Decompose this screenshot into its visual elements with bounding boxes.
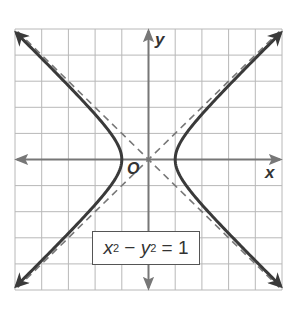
coordinate-plane [0, 0, 296, 319]
x-axis-label: x [265, 163, 274, 183]
eq-rhs: 1 [178, 237, 189, 259]
origin-label: O [127, 160, 139, 178]
y-axis-label: y [155, 30, 164, 50]
equation-box: x2 − y2 = 1 [92, 231, 200, 265]
eq-x: x [103, 237, 113, 259]
eq-minus: − [119, 237, 141, 259]
eq-y: y [141, 237, 151, 259]
eq-equals: = [156, 237, 178, 259]
